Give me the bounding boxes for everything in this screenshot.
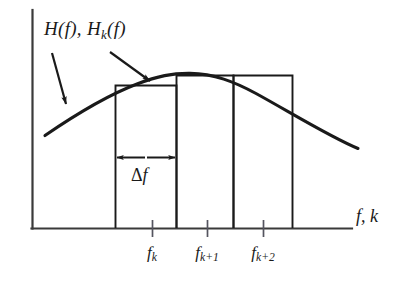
delta-symbol: Δ xyxy=(131,165,143,185)
bandwidth-label: Δf xyxy=(131,166,148,184)
curve-label-h-tail: (f) xyxy=(107,18,126,39)
tick-label-fk-plus-1: fk+1 xyxy=(195,244,218,264)
curve-label-h-of-f: H(f), Hk(f) xyxy=(44,19,126,42)
tick-label-fk1-sub: k+1 xyxy=(200,251,219,264)
leader-arrow-hk-icon xyxy=(110,52,150,81)
band-bar-k1 xyxy=(177,76,234,229)
x-axis-label: f, k xyxy=(356,207,378,225)
curve-label-h-text: H(f), H xyxy=(44,18,101,39)
frequency-response-figure: H(f), Hk(f) f, k Δf fk fk+1 fk+2 xyxy=(0,0,406,289)
tick-label-fk2-sub: k+2 xyxy=(256,251,275,264)
tick-label-fk: fk xyxy=(147,244,157,264)
tick-label-fk-sub: k xyxy=(152,251,157,264)
leader-arrow-h-icon xyxy=(52,53,66,104)
response-curve xyxy=(45,73,358,148)
delta-variable: f xyxy=(143,165,148,185)
tick-label-fk-plus-2: fk+2 xyxy=(251,244,274,264)
leader-arrows-group xyxy=(52,52,150,104)
